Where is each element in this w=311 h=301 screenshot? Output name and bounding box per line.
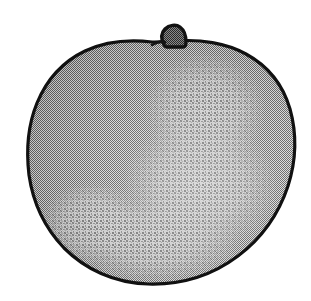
fruit-illustration: Black and white halftone line drawing of… xyxy=(0,0,311,301)
image-canvas: apple Black and white halftone line draw… xyxy=(0,0,311,301)
